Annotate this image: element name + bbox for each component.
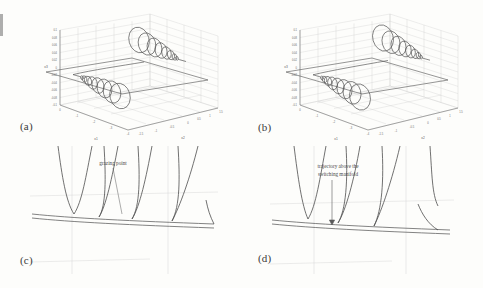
svg-text:0.02: 0.02: [52, 58, 58, 62]
svg-text:0.1: 0.1: [293, 28, 297, 32]
svg-text:0.06: 0.06: [292, 43, 298, 47]
panel-label-a: (a): [20, 120, 33, 132]
parabolic-arcs-c: [58, 146, 214, 224]
svg-text:-0.1: -0.1: [293, 103, 298, 107]
svg-text:-1: -1: [76, 114, 79, 118]
z-axis-label-a: x3: [44, 65, 48, 69]
svg-text:0: 0: [187, 121, 189, 125]
panel-d-plot: trajectory above the switching manifold: [242, 144, 483, 288]
y-ticks-a: -1.5 -1 -0.5 0 0.5 1 1.5: [139, 110, 224, 136]
svg-text:0.02: 0.02: [292, 58, 298, 62]
parabolic-arcs-d: [294, 146, 438, 230]
svg-text:-0.08: -0.08: [291, 96, 297, 100]
x-ticks-b: 0 -1 -2 -3 -4: [299, 108, 369, 137]
svg-text:-1.5: -1.5: [139, 132, 144, 136]
svg-text:-2: -2: [333, 120, 336, 124]
y-axis-label-a: x2: [181, 136, 185, 140]
upper-spiral-b: [370, 22, 430, 60]
figure-container: 0.1 0.08 0.06 0.04 0.02 0 -0.02 -0.04 -0…: [0, 0, 483, 288]
x-ticks-a: 0 -1 -2 -3 -4: [59, 108, 129, 137]
x-axis-label-b: x1: [334, 137, 338, 141]
svg-text:1.5: 1.5: [459, 110, 463, 114]
grid-d: [270, 146, 454, 274]
z-ticks-b: 0.1 0.08 0.06 0.04 0.02 0 -0.02 -0.04 -0…: [291, 28, 297, 107]
trajectory-annotation-d: trajectory above the switching manifold: [317, 163, 359, 177]
svg-text:-1: -1: [395, 129, 398, 133]
svg-text:0.08: 0.08: [52, 36, 58, 40]
svg-text:-4: -4: [127, 132, 130, 136]
panel-label-c: (c): [20, 254, 33, 266]
svg-text:-1: -1: [155, 129, 158, 133]
switching-plane-a: [46, 58, 208, 94]
y-axis-label-b: x2: [421, 136, 425, 140]
panel-c-plot: grazing point grazing point: [0, 144, 242, 288]
svg-text:-3: -3: [350, 126, 353, 130]
svg-text:-1.5: -1.5: [379, 132, 384, 136]
grazing-pointer-c: [113, 168, 122, 214]
svg-text:-2: -2: [93, 120, 96, 124]
svg-text:0: 0: [56, 66, 58, 70]
panel-a: 0.1 0.08 0.06 0.04 0.02 0 -0.02 -0.04 -0…: [0, 0, 242, 144]
y-ticks-b: -1.5 -1 -0.5 0 0.5 1 1.5: [379, 110, 464, 136]
svg-text:0.04: 0.04: [292, 51, 298, 55]
svg-text:-0.06: -0.06: [291, 88, 297, 92]
svg-text:0.08: 0.08: [292, 36, 298, 40]
svg-text:-1: -1: [316, 114, 319, 118]
svg-text:0: 0: [59, 108, 61, 112]
x-axis-label-a: x1: [94, 137, 98, 141]
svg-text:-0.5: -0.5: [170, 125, 175, 129]
panel-c: grazing point grazing point (c): [0, 144, 242, 288]
svg-text:1: 1: [209, 114, 211, 118]
annotation-line-1: trajectory above the: [317, 163, 359, 169]
svg-text:-0.08: -0.08: [51, 96, 57, 100]
svg-text:0: 0: [427, 121, 429, 125]
svg-text:-0.5: -0.5: [410, 125, 415, 129]
svg-text:1: 1: [449, 114, 451, 118]
svg-text:-0.04: -0.04: [51, 81, 57, 85]
svg-text:-0.06: -0.06: [51, 88, 57, 92]
panel-label-b: (b): [258, 121, 271, 133]
annotation-line-2: switching manifold: [318, 171, 359, 177]
panel-b: 0.1 0.08 0.06 0.04 0.02 0 -0.02 -0.04 -0…: [242, 0, 483, 144]
svg-text:-0.1: -0.1: [53, 103, 58, 107]
svg-text:0.06: 0.06: [52, 43, 58, 47]
panel-label-d: (d): [258, 252, 271, 264]
grid-3d-b: [300, 14, 458, 130]
svg-text:0.04: 0.04: [52, 51, 58, 55]
switching-manifold-d: [272, 220, 450, 234]
panel-a-plot: 0.1 0.08 0.06 0.04 0.02 0 -0.02 -0.04 -0…: [0, 0, 242, 144]
svg-text:1.5: 1.5: [219, 110, 223, 114]
svg-text:0.1: 0.1: [53, 28, 57, 32]
z-ticks-a: 0.1 0.08 0.06 0.04 0.02 0 -0.02 -0.04 -0…: [51, 28, 57, 107]
svg-text:0.5: 0.5: [197, 117, 201, 121]
panel-d: trajectory above the switching manifold …: [242, 144, 483, 288]
panel-b-plot: 0.1 0.08 0.06 0.04 0.02 0 -0.02 -0.04 -0…: [242, 0, 483, 144]
grazing-point-text: grazing point: [99, 160, 127, 166]
svg-text:0: 0: [296, 66, 298, 70]
z-axis-label-b: x3: [284, 65, 288, 69]
svg-text:-3: -3: [110, 126, 113, 130]
svg-text:-0.04: -0.04: [291, 81, 297, 85]
svg-text:0.5: 0.5: [437, 117, 441, 121]
svg-text:0: 0: [299, 108, 301, 112]
svg-text:-4: -4: [367, 132, 370, 136]
switching-manifold-c: [32, 214, 214, 228]
